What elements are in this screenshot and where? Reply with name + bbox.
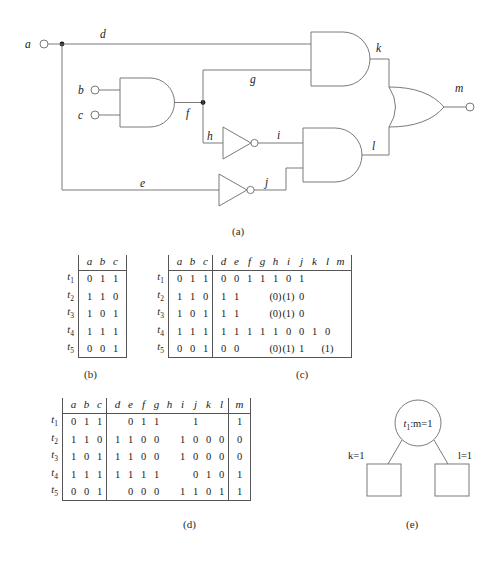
table-d-cell: 0 xyxy=(80,483,93,501)
table-c-cell xyxy=(321,270,334,288)
and-gate-ij xyxy=(303,128,362,182)
table-c-cell xyxy=(256,305,269,323)
table-c-cell xyxy=(334,340,352,358)
table-d-cell: 1 xyxy=(80,413,93,431)
table-d-cell: 1 xyxy=(150,413,163,431)
label-f: f xyxy=(186,107,191,120)
table-d-th-c: c xyxy=(93,398,107,413)
table-c-cell xyxy=(308,340,321,358)
table-c-cell: 0 xyxy=(295,305,308,323)
table-b-th-b: b xyxy=(96,255,109,270)
table-c-row-label: t1 xyxy=(148,270,169,288)
table-d-cell: 0 xyxy=(215,431,229,449)
wire-g xyxy=(203,70,311,103)
table-c-th-g: g xyxy=(256,255,269,270)
table-d-th-g: g xyxy=(150,398,163,413)
table-d-cell: 1 xyxy=(63,431,81,449)
table-d-cell xyxy=(163,483,176,501)
table-d-cell: 0 xyxy=(150,431,163,449)
table-d-cell: 0 xyxy=(229,431,251,449)
label-h: h xyxy=(207,130,213,142)
table-d-cell: 0 xyxy=(93,431,107,449)
table-b-cell: 1 xyxy=(109,270,127,288)
table-c-th-k: k xyxy=(308,255,321,270)
table-b-row-label: t2 xyxy=(58,288,79,306)
table-c-cell: 0 xyxy=(213,340,231,358)
table-c-cell xyxy=(334,270,352,288)
table-c-wrap: abcdefghijklm t10110011101t211011(0)(1)0… xyxy=(148,255,352,358)
and-gate-bc xyxy=(120,78,175,127)
table-c-cell xyxy=(243,288,256,306)
table-row: t101101111 xyxy=(42,413,251,431)
table-row: t2110110010000 xyxy=(42,431,251,449)
table-d-th-m: m xyxy=(229,398,251,413)
table-c-th-b: b xyxy=(186,255,199,270)
table-d-th-d: d xyxy=(107,398,125,413)
table-c-cell: 1 xyxy=(256,323,269,341)
label-a: a xyxy=(25,38,31,50)
table-c-row-label: t4 xyxy=(148,323,169,341)
table-row: t500100(0)(1)1(1) xyxy=(148,340,352,358)
table-c-th-h: h xyxy=(269,255,282,270)
output-terminal-m xyxy=(466,103,474,111)
table-d-cell: 0 xyxy=(150,448,163,466)
table-c-row-label: t2 xyxy=(148,288,169,306)
table-c-th-a: a xyxy=(169,255,187,270)
table-d-cell xyxy=(215,413,229,431)
table-c-row-label: t3 xyxy=(148,305,169,323)
table-row: t211011(0)(1)0 xyxy=(148,288,352,306)
table-row: t310111(0)(1)0 xyxy=(148,305,352,323)
table-d-cell: 1 xyxy=(176,448,189,466)
table-d-cell: 1 xyxy=(176,431,189,449)
table-d-cell: 1 xyxy=(93,413,107,431)
table-d-cell xyxy=(176,466,189,484)
table-b-corner xyxy=(58,255,79,270)
table-d-cell: 1 xyxy=(137,466,150,484)
table-c-cell: 1 xyxy=(186,323,199,341)
table-b-cell: 0 xyxy=(96,340,109,358)
table-c-cell: (0) xyxy=(269,305,282,323)
table-d-row-label: t4 xyxy=(42,466,63,484)
table-c-cell: 1 xyxy=(243,323,256,341)
table-c-cell: 0 xyxy=(186,340,199,358)
table-c-cell: (1) xyxy=(282,305,295,323)
table-d-header-row: abcdefghijklm xyxy=(42,398,251,413)
table-c-cell xyxy=(243,305,256,323)
or-gate-kl xyxy=(389,87,444,127)
table-d-cell: 0 xyxy=(189,431,202,449)
table-d-cell: 0 xyxy=(80,448,93,466)
label-b: b xyxy=(78,84,84,96)
table-c-cell: 1 xyxy=(169,288,187,306)
table-c-corner xyxy=(148,255,169,270)
table-row: t1011 xyxy=(58,270,127,288)
table-d-cell: 0 xyxy=(215,466,229,484)
table-c-cell: 1 xyxy=(186,288,199,306)
input-terminal-c xyxy=(91,111,99,119)
table-b-row-label: t5 xyxy=(58,340,79,358)
table-d-corner xyxy=(42,398,63,413)
table-row: t3101 xyxy=(58,305,127,323)
table-b-row-label: t1 xyxy=(58,270,79,288)
table-c-header-row: abcdefghijklm xyxy=(148,255,352,270)
not-gate-h xyxy=(223,127,251,159)
table-c-cell xyxy=(321,288,334,306)
table-b-cell: 1 xyxy=(109,323,127,341)
table-d-cell: 0 xyxy=(137,448,150,466)
table-row: t5001 xyxy=(58,340,127,358)
table-d-th-i: i xyxy=(176,398,189,413)
table-c-cell: (0) xyxy=(269,288,282,306)
table-c-cell: 0 xyxy=(186,305,199,323)
table-c-cell xyxy=(308,305,321,323)
table-c-cell: 1 xyxy=(269,270,282,288)
table-c-cell xyxy=(334,288,352,306)
table-d-cell: 1 xyxy=(229,483,251,501)
table-b-cell: 1 xyxy=(96,288,109,306)
label-g: g xyxy=(250,73,256,86)
table-d-cell: 0 xyxy=(215,448,229,466)
table-b-cell: 1 xyxy=(96,270,109,288)
table-c-th-d: d xyxy=(213,255,231,270)
table-c-cell: 1 xyxy=(199,340,213,358)
table-d-th-l: l xyxy=(215,398,229,413)
table-b-th-c: c xyxy=(109,255,127,270)
caption-e: (e) xyxy=(406,518,418,530)
